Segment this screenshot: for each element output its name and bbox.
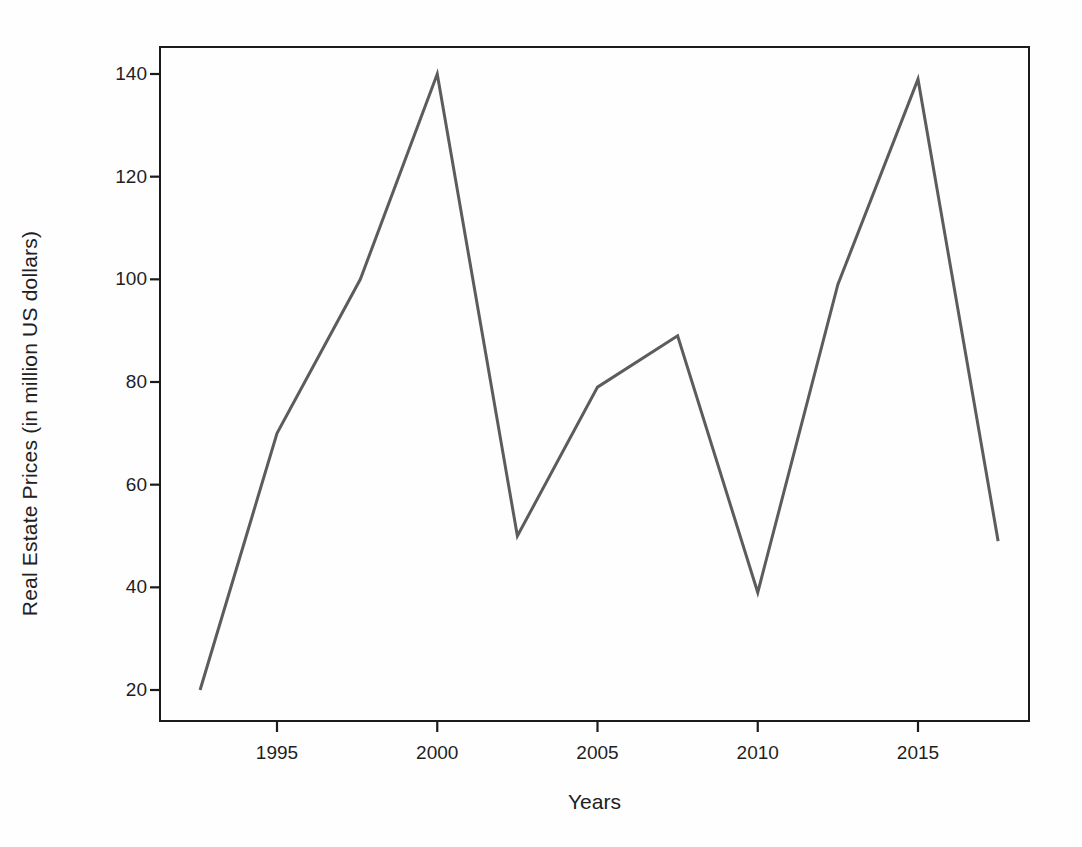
y-tick-label: 40: [87, 576, 147, 598]
x-axis-title: Years: [159, 790, 1030, 814]
line-chart: Real Estate Prices (in million US dollar…: [0, 0, 1082, 847]
x-tick-label: 2000: [392, 742, 482, 764]
x-tick-label: 1995: [232, 742, 322, 764]
y-tick-label: 120: [87, 166, 147, 188]
y-tick-label: 60: [87, 474, 147, 496]
x-tick-label: 2010: [713, 742, 803, 764]
y-tick-label: 80: [87, 371, 147, 393]
x-tick-label: 2005: [553, 742, 643, 764]
plot-area-frame: [159, 46, 1030, 722]
y-tick-label: 140: [87, 63, 147, 85]
y-tick-label: 20: [87, 679, 147, 701]
y-axis-title: Real Estate Prices (in million US dollar…: [0, 0, 60, 847]
x-tick-label: 2015: [873, 742, 963, 764]
y-tick-label: 100: [87, 268, 147, 290]
